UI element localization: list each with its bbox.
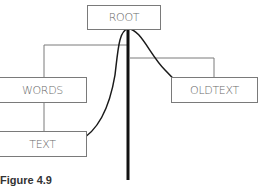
node-text: TEXT: [0, 131, 87, 157]
node-words: WORDS: [0, 77, 87, 103]
node-text-label: TEXT: [29, 138, 56, 151]
node-oldtext: OLDTEXT: [171, 77, 258, 103]
figure-caption: Figure 4.9: [0, 174, 52, 186]
connector-root-oldtext: [130, 58, 214, 77]
node-root: ROOT: [87, 5, 161, 30]
node-oldtext-label: OLDTEXT: [190, 84, 239, 97]
node-root-label: ROOT: [109, 11, 139, 24]
curved-arrow: [79, 29, 183, 141]
node-words-label: WORDS: [22, 84, 63, 97]
